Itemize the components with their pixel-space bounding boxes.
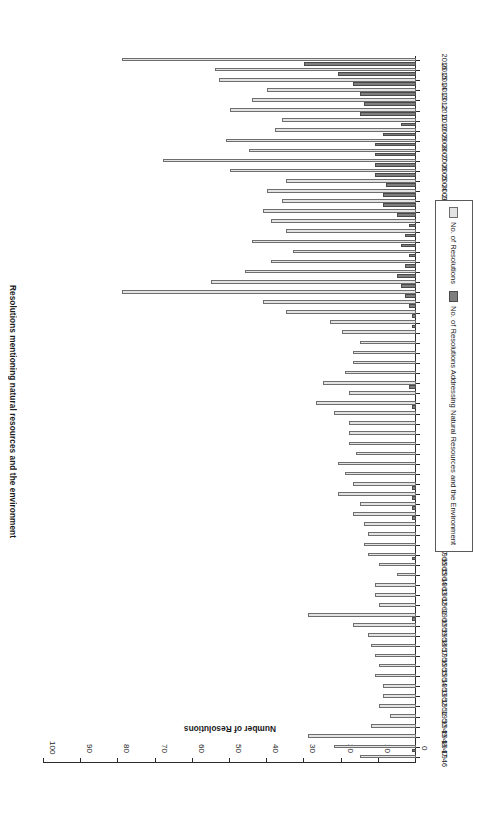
bar-subset [409,254,416,258]
bar-subset [386,183,416,187]
bar-total [263,300,416,304]
bar-total [308,734,416,738]
year-bar-group: 1983 [44,379,416,389]
bar-total [163,159,416,163]
bar-subset [375,163,416,167]
year-bar-group: 1982 [44,389,416,399]
year-bar-group: 1975 [44,460,416,470]
legend-swatch [450,207,459,218]
bar-subset [364,102,416,106]
bar-total [345,371,416,375]
year-bar-group: 2001 [44,208,416,218]
bar-total [353,351,416,355]
rotated-figure-wrapper: Resolutions mentioning natural resources… [0,0,481,822]
year-bar-group: 1979 [44,420,416,430]
bar-subset [383,133,416,137]
year-bar-group: 2010 [44,117,416,127]
bar-subset [397,274,416,278]
year-bar-group: 2008 [44,137,416,147]
chart-title-text: Resolutions mentioning natural resources… [9,284,18,537]
bar-total [230,169,416,173]
year-bar-group: 1988 [44,339,416,349]
year-bar-group: 1964 [44,571,416,581]
bar-subset [375,173,416,177]
bar-subset [412,557,416,561]
bar-total [360,502,416,506]
year-bar-group: 1949 [44,723,416,733]
bar-total [122,290,416,294]
year-bar-group: 1965 [44,561,416,571]
bar-total [379,603,416,607]
year-bar-group: 1966 [44,551,416,561]
year-bar-group: 1981 [44,399,416,409]
bar-total [226,139,416,143]
year-bar-group: 1987 [44,349,416,359]
year-bar-group: 1969 [44,521,416,531]
bar-subset [304,62,416,66]
bar-subset [397,213,416,217]
bar-total [252,98,416,102]
bar-total [316,401,416,405]
year-bar-group: 1956 [44,652,416,662]
bar-total [230,108,416,112]
year-bar-group: 1994 [44,278,416,288]
year-bar-group: 2016 [44,56,416,66]
bar-total [345,472,416,476]
bar-total [364,543,416,547]
bar-total [360,755,416,759]
year-bar-group: 1951 [44,702,416,712]
bar-total [293,250,416,254]
bar-subset [412,516,416,520]
bar-total [271,260,416,264]
year-bar-group: 1980 [44,410,416,420]
year-bar-group: 1990 [44,319,416,329]
bar-total [353,482,416,486]
legend-swatch [450,291,459,302]
bar-total [353,623,416,627]
bar-subset [405,294,416,298]
bar-subset [338,72,416,76]
year-bar-group: 1997 [44,248,416,258]
year-bar-group: 1948 [44,733,416,743]
bar-subset [401,244,416,248]
year-bar-group: 1970 [44,511,416,521]
year-bar-group: 1962 [44,591,416,601]
bar-total [349,391,416,395]
legend-label: No. of Resolutions Addressing Natural Re… [450,306,459,545]
bar-total [375,593,416,597]
year-bar-group: 1961 [44,601,416,611]
year-bar-group: 1967 [44,541,416,551]
bar-total [282,199,416,203]
bar-total [219,78,416,82]
bar-total [267,189,416,193]
bar-total [353,361,416,365]
year-bar-group: 1977 [44,440,416,450]
year-bar-group: 1953 [44,682,416,692]
legend-item: No. of Resolutions Addressing Natural Re… [450,291,459,545]
bar-total [286,179,416,183]
bar-total [249,149,416,153]
year-bar-group: 1974 [44,470,416,480]
bar-total [245,270,416,274]
bar-total [211,280,416,284]
bar-total [334,745,416,749]
bar-total [375,654,416,658]
bar-total [368,532,416,536]
bar-total [371,724,416,728]
bar-total [371,644,416,648]
year-bar-group: 1960 [44,612,416,622]
year-bar-group: 1954 [44,672,416,682]
bar-subset [360,92,416,96]
bar-total [349,421,416,425]
year-bar-group: 1972 [44,490,416,500]
year-bar-group: 1959 [44,622,416,632]
bar-total [338,492,416,496]
chart-legend: No. of ResolutionsNo. of Resolutions Add… [435,200,473,552]
bar-total [368,553,416,557]
year-bar-group: 2014 [44,76,416,86]
year-bar-group: 2007 [44,147,416,157]
year-bar-group: 1963 [44,581,416,591]
legend-label: No. of Resolutions [450,222,459,284]
bar-total [368,633,416,637]
bar-total [338,462,416,466]
